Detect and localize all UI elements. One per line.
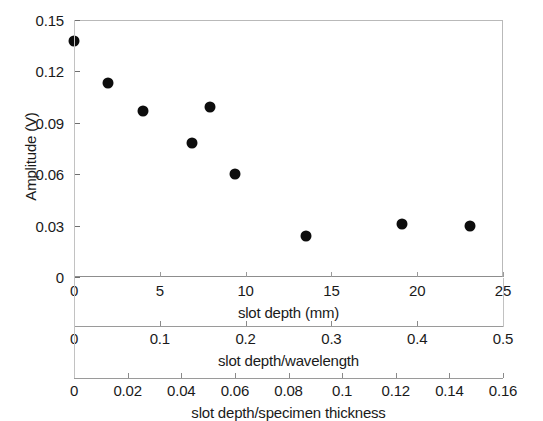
x-tick-mark-primary (503, 272, 504, 277)
axis-connector-left (74, 326, 75, 378)
x-tick-mark-primary (160, 272, 161, 277)
x-tick-mark-tertiary (503, 373, 504, 378)
plot-area (74, 20, 503, 277)
x-tick-mark-primary (246, 272, 247, 277)
x-tick-mark-secondary (246, 321, 247, 326)
x-tick-mark-tertiary (289, 373, 290, 378)
x-tick-label-primary: 10 (237, 283, 253, 298)
x-tick-label-tertiary: 0.1 (332, 383, 352, 398)
x-tick-mark-tertiary (128, 373, 129, 378)
x-tick-label-secondary: 0.3 (321, 331, 341, 346)
x-tick-mark-secondary (331, 321, 332, 326)
data-point (137, 105, 148, 116)
data-point (103, 78, 114, 89)
x-tick-mark-tertiary (396, 373, 397, 378)
x-tick-mark-secondary (160, 321, 161, 326)
x-tick-label-secondary: 0.4 (407, 331, 427, 346)
y-tick-label: 0 (2, 270, 64, 285)
x-tick-label-secondary: 0.5 (493, 331, 513, 346)
x-tick-label-tertiary: 0.02 (113, 383, 141, 398)
x-tick-label-primary: 5 (156, 283, 164, 298)
data-point (187, 138, 198, 149)
x-tick-mark-primary (417, 272, 418, 277)
data-point (396, 218, 407, 229)
x-axis-title-secondary: slot depth/wavelength (74, 352, 503, 369)
x-tick-label-secondary: 0.1 (150, 331, 170, 346)
y-tick-label: 0.03 (2, 218, 64, 233)
x-tick-label-tertiary: 0.06 (221, 383, 249, 398)
x-tick-label-primary: 15 (323, 283, 339, 298)
x-axis-line (74, 378, 503, 379)
y-tick-label: 0.15 (2, 13, 64, 28)
x-tick-label-tertiary: 0.04 (167, 383, 195, 398)
x-axis-title-tertiary: slot depth/specimen thickness (74, 404, 503, 421)
x-tick-mark-secondary (417, 321, 418, 326)
axis-connector-right (503, 278, 504, 327)
data-point (300, 230, 311, 241)
scatter-plot-figure: Amplitude (V) 00.030.060.090.120.1505101… (0, 0, 543, 421)
y-tick-label: 0.12 (2, 64, 64, 79)
data-point (230, 169, 241, 180)
x-tick-mark-tertiary (342, 373, 343, 378)
y-axis-title: Amplitude (V) (22, 87, 39, 227)
x-tick-label-secondary: 0.2 (235, 331, 255, 346)
y-tick-label: 0.09 (2, 115, 64, 130)
x-tick-label-tertiary: 0.16 (489, 383, 517, 398)
axis-connector-left (74, 20, 75, 326)
x-tick-label-tertiary: 0.08 (274, 383, 302, 398)
x-tick-label-primary: 20 (409, 283, 425, 298)
x-tick-mark-tertiary (181, 373, 182, 378)
x-tick-label-tertiary: 0.14 (435, 383, 463, 398)
y-tick-label: 0.06 (2, 167, 64, 182)
data-point (465, 220, 476, 231)
data-point (204, 102, 215, 113)
x-tick-mark-tertiary (449, 373, 450, 378)
x-axis-line (74, 326, 503, 327)
x-tick-label-tertiary: 0.12 (382, 383, 410, 398)
x-tick-label-tertiary: 0 (70, 383, 78, 398)
x-tick-mark-primary (331, 272, 332, 277)
x-axis-title-primary: slot depth (mm) (74, 304, 503, 321)
x-tick-mark-tertiary (235, 373, 236, 378)
